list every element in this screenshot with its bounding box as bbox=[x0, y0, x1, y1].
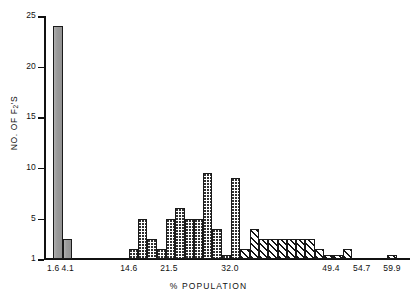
x-tick-label: 21.5 bbox=[160, 263, 177, 273]
x-tick-label: 1.6 bbox=[47, 263, 59, 273]
histogram-bar bbox=[305, 239, 314, 259]
bars-container bbox=[44, 16, 410, 259]
histogram-bar bbox=[166, 219, 175, 260]
histogram-bar bbox=[63, 239, 72, 259]
histogram-bar bbox=[333, 255, 342, 259]
y-axis-title-prefix: NO. OF F bbox=[9, 109, 19, 151]
x-tick-label: 32.0 bbox=[221, 263, 238, 273]
y-tick-label: 15 bbox=[26, 111, 36, 121]
histogram-bar bbox=[175, 208, 184, 259]
y-tick-label: 20 bbox=[26, 61, 36, 71]
y-tick-label: 5 bbox=[31, 213, 36, 223]
x-tick-label: 59.9 bbox=[383, 263, 400, 273]
y-axis-title: NO. OF F2'S bbox=[9, 73, 19, 173]
histogram-bar bbox=[278, 239, 287, 259]
histogram-bar bbox=[343, 249, 352, 259]
histogram-bar bbox=[212, 229, 221, 259]
x-tick-label: 54.7 bbox=[353, 263, 370, 273]
histogram-bar bbox=[324, 255, 333, 259]
histogram-chart: NO. OF F2'S 1510152025 1.64.114.621.532.… bbox=[0, 0, 417, 301]
histogram-bar bbox=[231, 178, 240, 259]
y-axis-title-subscript: 2 bbox=[12, 104, 19, 108]
x-tick-label: 49.4 bbox=[322, 263, 339, 273]
y-tick-label: 10 bbox=[26, 162, 36, 172]
x-tick-label: 14.6 bbox=[120, 263, 137, 273]
y-tick-mark bbox=[38, 259, 44, 261]
histogram-bar bbox=[268, 239, 277, 259]
x-tick-label: 4.1 bbox=[62, 263, 74, 273]
y-axis-title-suffix: 'S bbox=[9, 96, 19, 105]
histogram-bar bbox=[222, 255, 231, 259]
histogram-bar bbox=[157, 249, 166, 259]
x-axis-title: % POPULATION bbox=[0, 281, 417, 291]
histogram-bar bbox=[296, 239, 305, 259]
histogram-bar bbox=[240, 249, 249, 259]
histogram-bar bbox=[250, 229, 259, 259]
histogram-bar bbox=[53, 26, 62, 259]
y-tick-label: 1 bbox=[31, 253, 36, 263]
histogram-bar bbox=[147, 239, 156, 259]
histogram-bar bbox=[129, 249, 138, 259]
y-tick-label: 25 bbox=[26, 10, 36, 20]
histogram-bar bbox=[259, 239, 268, 259]
histogram-bar bbox=[185, 219, 194, 260]
histogram-bar bbox=[194, 219, 203, 260]
histogram-bar bbox=[387, 255, 396, 259]
histogram-bar bbox=[315, 249, 324, 259]
histogram-bar bbox=[203, 173, 212, 259]
plot-area bbox=[44, 16, 410, 259]
histogram-bar bbox=[287, 239, 296, 259]
histogram-bar bbox=[138, 219, 147, 260]
